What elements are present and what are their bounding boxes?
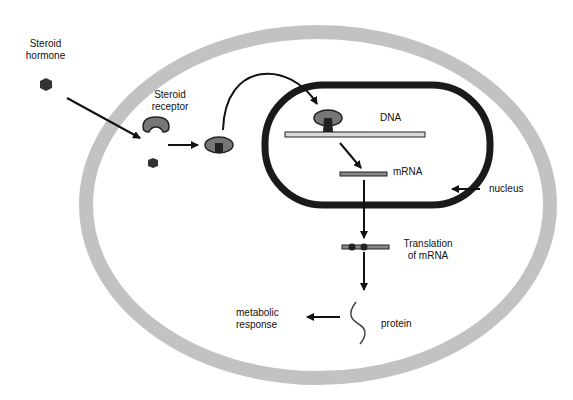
metabolic-response-label: metabolic response [236, 307, 279, 331]
steroid-hormone-label-line2: hormone [18, 50, 73, 62]
mrna-strand [340, 172, 387, 176]
steroid-hormone-label-line1: Steroid [18, 38, 73, 50]
protein-label: protein [381, 318, 412, 330]
mrna-label: mRNA [393, 166, 422, 178]
nuclear-envelope [265, 85, 490, 205]
complex-hormone-core [215, 143, 223, 153]
steroid-receptor-icon [143, 117, 169, 132]
dna-bound-core [323, 118, 333, 132]
dna-label: DNA [380, 112, 401, 124]
nucleus-label: nucleus [489, 183, 523, 195]
ribosome-icon [361, 244, 368, 251]
metabolic-label-line2: response [236, 319, 279, 331]
steroid-hormone-label: Steroid hormone [18, 38, 73, 62]
translation-label-line2: of mRNA [398, 250, 458, 262]
steroid-hormone-icon [40, 78, 52, 91]
steroid-hormone-icon-inside [148, 158, 158, 168]
steroid-receptor-label-line2: receptor [145, 101, 195, 113]
dna-strand [285, 132, 425, 137]
translation-label: Translation of mRNA [398, 238, 458, 262]
steroid-receptor-label: Steroid receptor [145, 89, 195, 113]
diagram-canvas [0, 0, 573, 400]
translation-label-line1: Translation [398, 238, 458, 250]
ribosome-icon [349, 244, 356, 251]
metabolic-label-line1: metabolic [236, 307, 279, 319]
protein-icon [351, 302, 365, 344]
steroid-receptor-label-line1: Steroid [145, 89, 195, 101]
